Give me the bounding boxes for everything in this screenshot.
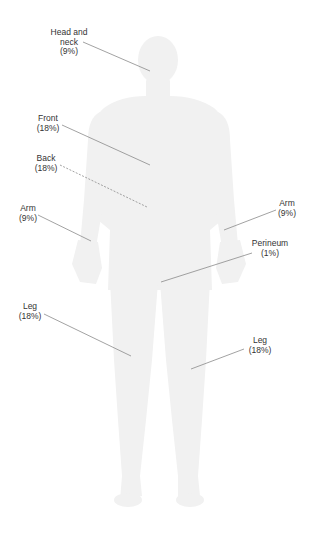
label-arm-left: Arm (9%): [19, 204, 37, 223]
region-percent: (18%): [37, 124, 60, 134]
label-perineum: Perineum (1%): [252, 239, 288, 258]
region-percent: (18%): [249, 346, 272, 356]
region-percent: (18%): [19, 312, 42, 322]
label-front: Front (18%): [37, 114, 60, 133]
region-percent: (18%): [35, 164, 58, 174]
region-percent: (9%): [19, 214, 37, 224]
body-silhouette: [0, 0, 313, 533]
label-arm-right: Arm (9%): [278, 199, 296, 218]
label-leg-right: Leg (18%): [249, 336, 272, 355]
label-head-neck: Head and neck (9%): [51, 28, 88, 57]
human-figure-icon: [72, 36, 246, 507]
label-back: Back (18%): [35, 154, 58, 173]
region-percent: (9%): [278, 209, 296, 219]
region-percent: (9%): [51, 47, 88, 57]
label-leg-left: Leg (18%): [19, 302, 42, 321]
region-percent: (1%): [252, 249, 288, 259]
body-surface-area-diagram: Head and neck (9%) Front (18%) Back (18%…: [0, 0, 313, 533]
